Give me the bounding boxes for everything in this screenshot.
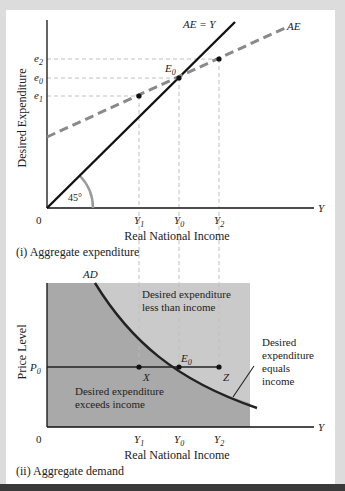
figure-svg: AE = Y AE E0 e2 e0 e1 Desired Expenditur… (0, 0, 345, 491)
ae-equals-y-line (47, 22, 235, 208)
z-point-label: Z (223, 371, 230, 383)
ae-equals-y-label: AE = Y (182, 18, 217, 30)
ae-label: AE (286, 20, 301, 32)
bottom-origin-label: 0 (36, 433, 42, 445)
y-tick-e0: e0 (34, 71, 43, 86)
bottom-x-axis-end-label: Y (318, 421, 326, 433)
point-x (136, 364, 141, 369)
y-tick-e1: e1 (34, 89, 43, 104)
bottom-chart: AD Desired expenditure less than income … (15, 268, 326, 478)
ad-label: AD (82, 268, 98, 280)
bottom-caption: (ii) Aggregate demand (16, 464, 124, 478)
top-x-axis-end-label: Y (318, 202, 326, 214)
point-z (216, 364, 221, 369)
annotation-line4: income (262, 375, 294, 387)
top-caption: (i) Aggregate expenditure (16, 245, 139, 259)
point-y2 (216, 56, 221, 61)
bottom-x-tick-y0: Y0 (174, 433, 184, 448)
angle-label: 45° (68, 192, 82, 203)
bottom-x-tick-y2: Y2 (214, 433, 224, 448)
e0-label: E0 (164, 62, 176, 77)
region-lower-line2: exceeds income (75, 398, 145, 410)
region-upper-line1: Desired expenditure (142, 288, 231, 300)
p0-label: P0 (29, 361, 41, 376)
point-y1 (136, 93, 141, 98)
top-x-axis-label: Real National Income (124, 229, 229, 243)
bottom-y-axis-label: Price Level (15, 324, 29, 380)
bottom-x-axis-label: Real National Income (124, 448, 229, 462)
ae-line (47, 28, 285, 137)
bottom-x-tick-y1: Y1 (134, 433, 144, 448)
y-tick-e2: e2 (34, 52, 43, 67)
region-lower-line1: Desired expenditure (75, 385, 164, 397)
x-point-label: X (142, 371, 151, 383)
point-e0 (176, 75, 181, 80)
annotation-line1: Desired (262, 336, 297, 348)
top-y-axis-label: Desired Expenditure (15, 69, 29, 168)
region-upper-line2: less than income (142, 301, 215, 313)
annotation-line3: equals (262, 362, 290, 374)
point-e0-bottom (176, 364, 181, 369)
top-origin-label: 0 (36, 214, 42, 226)
annotation-line2: expenditure (262, 349, 314, 361)
